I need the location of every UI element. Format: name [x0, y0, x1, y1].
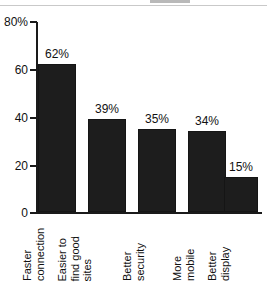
y-tick-label-40: 40	[15, 112, 28, 124]
bar-easier-to-find-good-sites[interactable]	[88, 119, 126, 212]
category-label-line: More	[171, 249, 184, 281]
bar-faster-connection[interactable]	[38, 64, 76, 212]
category-label-better-display: Better display	[206, 247, 231, 281]
scan-artifact-mark	[150, 0, 190, 3]
category-label-line: find good	[68, 236, 81, 281]
category-label-faster-connection: Faster connection	[21, 228, 46, 281]
y-tick-mark-80	[30, 21, 37, 23]
bar-better-display[interactable]	[224, 177, 258, 212]
y-tick-label-0: 0	[21, 207, 28, 219]
category-label-line: Faster	[21, 228, 34, 281]
y-tick-mark-20	[30, 165, 37, 167]
bar-value-faster-connection: 62%	[38, 48, 76, 60]
category-label-line: Better	[121, 243, 134, 281]
y-tick-label-20: 20	[15, 160, 28, 172]
y-tick-mark-60	[30, 69, 37, 71]
bar-value-better-display: 15%	[224, 161, 258, 173]
scan-artifact-line	[0, 5, 267, 6]
y-tick-label-60: 60	[15, 64, 28, 76]
category-label-line: mobile	[184, 249, 197, 281]
category-label-line: sites	[81, 236, 94, 281]
y-tick-mark-0	[30, 212, 37, 214]
category-label-line: connection	[34, 228, 47, 281]
y-tick-mark-40	[30, 117, 37, 119]
bar-value-easier-to-find-good-sites: 39%	[88, 103, 126, 115]
category-label-line: Easier to	[56, 236, 69, 281]
bar-value-more-mobile: 34%	[188, 115, 226, 127]
y-tick-label-80: 80%	[4, 16, 28, 28]
x-axis-line	[36, 212, 262, 214]
category-label-line: display	[219, 247, 232, 281]
category-label-more-mobile: More mobile	[171, 249, 196, 281]
bar-chart: 80% 60 40 20 0 62% 39% 35% 34% 15% Faste…	[0, 0, 267, 283]
bar-better-security[interactable]	[138, 129, 176, 212]
category-label-easier-to-find-good-sites: Easier to find good sites	[56, 236, 94, 281]
category-label-line: security	[134, 243, 147, 281]
bar-more-mobile[interactable]	[188, 131, 226, 212]
bar-value-better-security: 35%	[138, 113, 176, 125]
category-label-line: Better	[206, 247, 219, 281]
category-label-better-security: Better security	[121, 243, 146, 281]
